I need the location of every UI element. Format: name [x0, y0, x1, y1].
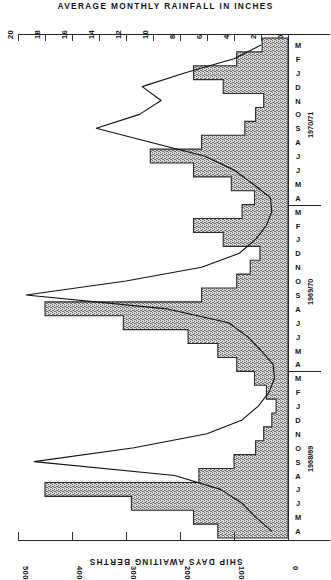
bottom-axis-tick-label: 400 [75, 566, 84, 580]
month-tick-label: S [291, 458, 305, 467]
month-tick-label: M [291, 41, 305, 50]
month-tick-label: F [291, 55, 305, 64]
year-group-label: 1969/70 [306, 279, 315, 305]
year-separator [288, 205, 321, 206]
bottom-axis-tick-label: 100 [237, 566, 246, 580]
month-tick-label: A [291, 305, 305, 314]
ship-days-step-area [45, 38, 288, 538]
month-tick-label: J [291, 235, 305, 244]
bottom-axis-tick [288, 532, 289, 540]
year-group-label: 1968/69 [306, 445, 315, 471]
month-tick-label: N [291, 97, 305, 106]
month-tick-label: M [291, 180, 305, 189]
bottom-axis-tick [72, 532, 73, 540]
year-group-label: 1970/71 [306, 112, 315, 138]
month-tick-label: N [291, 430, 305, 439]
month-tick-label: O [291, 277, 305, 286]
month-tick-label: F [291, 222, 305, 231]
bottom-axis-tick [126, 532, 127, 540]
month-tick-label: A [291, 472, 305, 481]
month-axis-line [288, 38, 289, 538]
bottom-axis-tick-label: 500 [21, 566, 30, 580]
month-tick-label: A [291, 138, 305, 147]
month-tick-label: J [291, 152, 305, 161]
month-tick-label: A [291, 194, 305, 203]
month-tick-label: N [291, 263, 305, 272]
month-tick-label: D [291, 83, 305, 92]
month-tick-label: J [291, 166, 305, 175]
month-tick-label: J [291, 485, 305, 494]
month-tick-label: M [291, 208, 305, 217]
bottom-axis-tick [18, 532, 19, 540]
month-tick-label: O [291, 110, 305, 119]
month-tick-label: D [291, 416, 305, 425]
month-tick-label: A [291, 527, 305, 536]
bottom-axis-tick [234, 532, 235, 540]
month-tick-label: S [291, 124, 305, 133]
month-tick-label: J [291, 69, 305, 78]
bottom-axis-tick-label: 300 [129, 566, 138, 580]
month-tick-label: S [291, 291, 305, 300]
bottom-axis-tick-label: 0 [291, 566, 300, 571]
year-separator [288, 371, 321, 372]
month-tick-label: O [291, 444, 305, 453]
month-tick-label: J [291, 499, 305, 508]
month-tick-label: M [291, 347, 305, 356]
bottom-axis-caption: SHIP DAYS AWAITING BERTHS [0, 557, 331, 566]
month-tick-label: A [291, 360, 305, 369]
month-tick-label: J [291, 402, 305, 411]
bottom-axis-tick-label: 200 [183, 566, 192, 580]
bottom-axis-line [18, 540, 330, 541]
month-tick-label: D [291, 249, 305, 258]
bottom-axis-tick [180, 532, 181, 540]
month-tick-label: M [291, 513, 305, 522]
month-tick-label: J [291, 319, 305, 328]
month-tick-label: F [291, 388, 305, 397]
month-tick-label: M [291, 374, 305, 383]
month-tick-label: J [291, 333, 305, 342]
